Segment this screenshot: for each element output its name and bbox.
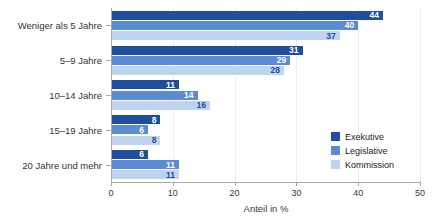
y-axis-category-label: 10–14 Jahre	[49, 90, 102, 101]
bar-value-label: 29	[277, 55, 286, 65]
bar	[111, 11, 383, 20]
x-axis-tick-label: 50	[415, 188, 425, 198]
bar-value-label: 6	[139, 149, 144, 159]
legend-label: Legislative	[345, 146, 388, 156]
x-axis-tick	[111, 182, 112, 186]
x-axis-tick-label: 30	[291, 188, 301, 198]
bar-value-label: 44	[369, 10, 378, 20]
bar	[111, 46, 303, 55]
legend-item[interactable]: Exekutive	[331, 130, 394, 143]
legend-item[interactable]: Legislative	[331, 144, 394, 157]
legend-swatch-icon	[331, 146, 340, 155]
bar	[111, 56, 290, 65]
x-axis-tick-label: 40	[353, 188, 363, 198]
bar-value-label: 11	[166, 170, 175, 180]
bar	[111, 66, 284, 75]
legend-swatch-icon	[331, 160, 340, 169]
legend-label: Kommission	[345, 160, 394, 170]
bar-value-label: 40	[345, 20, 354, 30]
x-axis-tick	[235, 182, 236, 186]
y-axis-tick	[106, 165, 111, 166]
bar-value-label: 11	[166, 160, 175, 170]
bar-chart: 01020304050Weniger als 5 Jahre4440375–9 …	[0, 0, 440, 221]
bar-value-label: 8	[152, 135, 157, 145]
gridline	[420, 8, 421, 182]
y-axis-tick	[106, 130, 111, 131]
x-axis-tick	[173, 182, 174, 186]
bar	[111, 31, 340, 40]
x-axis-line	[111, 182, 421, 183]
bar-value-label: 14	[184, 90, 193, 100]
x-axis-tick	[358, 182, 359, 186]
x-axis-tick-label: 10	[168, 188, 178, 198]
legend-label: Exekutive	[345, 132, 384, 142]
y-axis-tick	[106, 60, 111, 61]
y-axis-category-label: 5–9 Jahre	[60, 55, 102, 66]
y-axis-tick	[106, 25, 111, 26]
legend-swatch-icon	[331, 132, 340, 141]
x-axis-tick	[420, 182, 421, 186]
bar-value-label: 31	[289, 45, 298, 55]
y-axis-category-label: 15–19 Jahre	[49, 124, 102, 135]
bar	[111, 101, 210, 110]
bar-value-label: 28	[271, 65, 280, 75]
y-axis-category-label: Weniger als 5 Jahre	[18, 20, 102, 31]
y-axis-category-label: 20 Jahre und mehr	[22, 159, 102, 170]
x-axis-tick	[296, 182, 297, 186]
bar-value-label: 6	[139, 125, 144, 135]
bar	[111, 21, 358, 30]
x-axis-tick-label: 0	[108, 188, 113, 198]
y-axis-line	[111, 8, 112, 182]
bar-value-label: 8	[152, 115, 157, 125]
chart-legend: ExekutiveLegislativeKommission	[331, 130, 394, 172]
bar-value-label: 37	[326, 31, 335, 41]
legend-item[interactable]: Kommission	[331, 158, 394, 171]
bar-value-label: 11	[166, 80, 175, 90]
bar-value-label: 16	[196, 100, 205, 110]
y-axis-tick	[106, 95, 111, 96]
x-axis-tick-label: 20	[230, 188, 240, 198]
x-axis-title: Anteil in %	[111, 203, 421, 214]
